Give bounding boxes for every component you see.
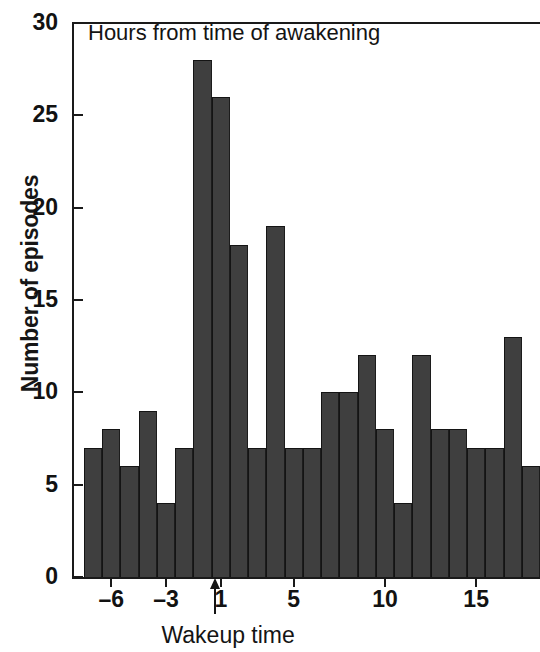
histogram-bar: [358, 355, 376, 577]
x-tick-label: –6: [89, 588, 133, 611]
y-tick-label: 15: [16, 288, 58, 311]
histogram-bar: [102, 429, 120, 577]
histogram-bar: [376, 429, 394, 577]
x-tick-label: –3: [144, 588, 188, 611]
y-axis-line: [72, 22, 74, 579]
histogram-bar: [321, 392, 339, 577]
histogram-bar: [522, 466, 540, 577]
histogram-bar: [212, 97, 230, 577]
histogram-bar: [175, 448, 193, 577]
histogram-bar: [266, 226, 284, 577]
histogram-bar: [449, 429, 467, 577]
histogram-figure: Number of episodes 051015202530 Hours fr…: [0, 0, 540, 652]
histogram-bar: [303, 448, 321, 577]
arrow-shaft-shape: [214, 586, 217, 614]
wakeup-time-label: Wakeup time: [161, 622, 294, 649]
y-tick-label: 30: [16, 11, 58, 34]
histogram-bar: [285, 448, 303, 577]
y-tick-label: 10: [16, 380, 58, 403]
histogram-bar: [467, 448, 485, 577]
y-tick-label: 20: [16, 196, 58, 219]
histogram-bar: [412, 355, 430, 577]
histogram-bar: [120, 466, 138, 577]
histogram-bar: [230, 245, 248, 577]
x-tick-label: 15: [454, 588, 498, 611]
histogram-bar: [339, 392, 357, 577]
histogram-bar: [157, 503, 175, 577]
histogram-bars: [84, 23, 540, 577]
histogram-bar: [394, 503, 412, 577]
x-tick-label: 10: [363, 588, 407, 611]
x-tick-label: 5: [272, 588, 316, 611]
histogram-bar: [193, 60, 211, 577]
wakeup-time-arrow-icon: [207, 578, 223, 614]
histogram-bar: [84, 448, 102, 577]
y-tick-label: 0: [16, 565, 58, 588]
histogram-bar: [139, 411, 157, 577]
x-axis-line: [72, 577, 540, 579]
histogram-bar: [504, 337, 522, 577]
y-tick-label: 25: [16, 103, 58, 126]
histogram-bar: [248, 448, 266, 577]
histogram-bar: [431, 429, 449, 577]
y-tick-label: 5: [16, 473, 58, 496]
histogram-bar: [485, 448, 503, 577]
